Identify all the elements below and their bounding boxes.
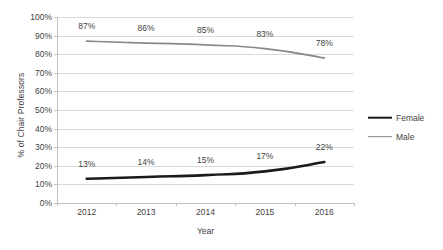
series-line-male	[87, 41, 325, 58]
legend-label: Female	[396, 113, 424, 123]
y-axis-tick-label: 10%	[22, 180, 52, 189]
x-axis-tick-label: 2012	[62, 207, 112, 217]
legend-line-icon	[368, 115, 392, 121]
y-axis-tick-label: 40%	[22, 124, 52, 133]
x-axis-tick-mark	[57, 203, 58, 206]
x-axis-tick-mark	[176, 203, 177, 206]
y-axis-tick-labels: 0%10%20%30%40%50%60%70%80%90%100%	[22, 17, 52, 203]
data-label: 85%	[186, 26, 226, 35]
y-axis-tick-label: 20%	[22, 162, 52, 171]
y-axis-tick-label: 60%	[22, 87, 52, 96]
data-label: 87%	[67, 22, 107, 31]
legend-line-icon	[368, 134, 392, 140]
y-axis-tick-label: 90%	[22, 31, 52, 40]
x-axis-tick-mark	[295, 203, 296, 206]
x-axis-tick-label: 2015	[240, 207, 290, 217]
data-label: 22%	[304, 143, 344, 152]
x-axis-tick-labels: 20122013201420152016	[57, 207, 354, 221]
y-axis-tick-label: 30%	[22, 143, 52, 152]
x-axis-tick-mark	[235, 203, 236, 206]
data-label: 83%	[245, 30, 285, 39]
x-axis-tick-label: 2013	[121, 207, 171, 217]
x-axis-tick-mark	[354, 203, 355, 206]
plot-area: 13%14%15%17%22%87%86%85%83%78%	[57, 17, 354, 203]
data-label: 17%	[245, 152, 285, 161]
legend-label: Male	[396, 132, 414, 142]
y-axis-tick-label: 80%	[22, 50, 52, 59]
legend-item-female[interactable]: Female	[368, 108, 440, 127]
gridline	[57, 203, 354, 204]
x-axis-title: Year	[57, 226, 354, 236]
y-axis-tick-label: 50%	[22, 106, 52, 115]
x-axis-tick-label: 2016	[299, 207, 349, 217]
data-label: 15%	[186, 156, 226, 165]
x-axis-tick-mark	[116, 203, 117, 206]
data-label: 86%	[126, 24, 166, 33]
line-chart: % of Chair Professors 0%10%20%30%40%50%6…	[0, 0, 443, 250]
y-axis-tick-label: 0%	[22, 199, 52, 208]
y-axis-tick-label: 70%	[22, 69, 52, 78]
data-label: 14%	[126, 158, 166, 167]
data-label: 13%	[67, 160, 107, 169]
y-axis-tick-label: 100%	[22, 13, 52, 22]
x-axis-tick-label: 2014	[181, 207, 231, 217]
chart-legend: FemaleMale	[368, 108, 440, 146]
legend-item-male[interactable]: Male	[368, 127, 440, 146]
data-label: 78%	[304, 39, 344, 48]
